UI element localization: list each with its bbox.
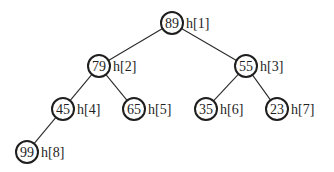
nodes-group: 89h[1]79h[2]55h[3]45h[4]65h[5]35h[6]23h[… bbox=[16, 12, 314, 163]
node-value: 55 bbox=[239, 59, 253, 74]
node-index-label: h[5] bbox=[148, 102, 171, 117]
node-index-label: h[8] bbox=[41, 145, 64, 160]
node-index-label: h[7] bbox=[291, 102, 314, 117]
edges-group bbox=[34, 29, 271, 144]
edge-h1-h2 bbox=[108, 29, 162, 61]
tree-node-h8: 99h[8] bbox=[16, 141, 64, 163]
node-value: 89 bbox=[165, 16, 179, 31]
heap-tree-diagram: 89h[1]79h[2]55h[3]45h[4]65h[5]35h[6]23h[… bbox=[0, 0, 334, 172]
node-value: 35 bbox=[199, 102, 213, 117]
tree-node-h2: 79h[2] bbox=[88, 55, 136, 77]
edge-h2-h5 bbox=[106, 75, 127, 101]
edge-h1-h3 bbox=[182, 29, 237, 61]
node-value: 23 bbox=[270, 102, 284, 117]
node-index-label: h[3] bbox=[260, 59, 283, 74]
tree-node-h5: 65h[5] bbox=[123, 98, 171, 120]
edge-h3-h7 bbox=[252, 75, 270, 100]
tree-node-h6: 35h[6] bbox=[195, 98, 243, 120]
node-value: 45 bbox=[56, 102, 70, 117]
tree-node-h1: 89h[1] bbox=[161, 12, 209, 34]
node-value: 79 bbox=[92, 59, 106, 74]
edge-h3-h6 bbox=[213, 74, 238, 101]
tree-node-h4: 45h[4] bbox=[52, 98, 100, 120]
node-index-label: h[1] bbox=[186, 16, 209, 31]
node-value: 65 bbox=[127, 102, 141, 117]
tree-node-h3: 55h[3] bbox=[235, 55, 283, 77]
edge-h2-h4 bbox=[70, 74, 92, 100]
tree-node-h7: 23h[7] bbox=[266, 98, 314, 120]
node-index-label: h[2] bbox=[113, 59, 136, 74]
node-value: 99 bbox=[20, 145, 34, 160]
node-index-label: h[6] bbox=[220, 102, 243, 117]
node-index-label: h[4] bbox=[77, 102, 100, 117]
edge-h4-h8 bbox=[34, 117, 56, 143]
